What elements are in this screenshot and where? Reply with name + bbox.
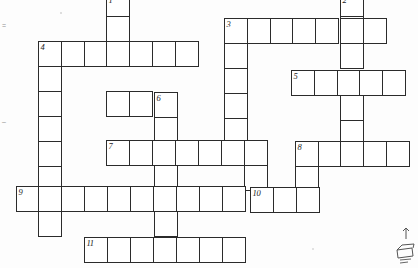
- crossword-cell-7[interactable]: 7: [106, 140, 130, 166]
- crossword-cell[interactable]: [106, 41, 130, 67]
- margin-mark: –: [2, 118, 6, 125]
- crossword-cell[interactable]: [106, 91, 130, 117]
- crossword-cell[interactable]: [38, 116, 62, 142]
- crossword-cell[interactable]: [292, 18, 316, 44]
- crossword-cell[interactable]: [273, 187, 297, 213]
- crossword-cell[interactable]: [38, 91, 62, 117]
- clue-number: 3: [227, 19, 231, 29]
- clue-number: 10: [253, 188, 261, 198]
- crossword-cell[interactable]: [38, 66, 62, 92]
- crossword-cell[interactable]: [340, 43, 364, 69]
- crossword-cell-10[interactable]: 10: [250, 187, 274, 213]
- crossword-cell[interactable]: [221, 140, 245, 166]
- clue-number: 7: [109, 141, 113, 151]
- crossword-cell[interactable]: [359, 70, 383, 96]
- crossword-grid[interactable]: 1234567891011: [0, 0, 418, 268]
- crossword-cell[interactable]: [315, 18, 339, 44]
- clue-number: 4: [41, 42, 45, 52]
- paper-speck: [60, 12, 62, 14]
- crossword-cell[interactable]: [363, 18, 387, 44]
- clue-number: 9: [19, 187, 23, 197]
- clue-number: 6: [157, 93, 161, 103]
- crossword-cell[interactable]: [247, 18, 271, 44]
- crossword-cell[interactable]: [154, 211, 178, 237]
- crossword-cell[interactable]: [222, 237, 246, 263]
- crossword-cell[interactable]: [270, 18, 294, 44]
- crossword-cell[interactable]: [224, 93, 248, 119]
- crossword-cell[interactable]: [152, 41, 176, 67]
- crossword-cell[interactable]: [340, 95, 364, 121]
- crossword-cell[interactable]: [224, 43, 248, 69]
- crossword-cell[interactable]: [244, 140, 268, 166]
- crossword-cell[interactable]: [130, 186, 154, 212]
- paper-speck: [312, 248, 314, 250]
- crossword-cell[interactable]: [363, 141, 387, 167]
- crossword-cell[interactable]: [199, 186, 223, 212]
- crossword-cell[interactable]: [106, 16, 130, 42]
- clue-number: 2: [343, 0, 347, 5]
- crossword-puzzle: 1234567891011 =–: [0, 0, 418, 268]
- crossword-cell-11[interactable]: 11: [84, 237, 108, 263]
- crossword-cell[interactable]: [153, 186, 177, 212]
- margin-mark: =: [2, 22, 6, 29]
- crossword-cell[interactable]: [176, 237, 200, 263]
- crossword-cell[interactable]: [337, 70, 361, 96]
- crossword-cell-6[interactable]: 6: [154, 92, 178, 118]
- crossword-cell[interactable]: [153, 237, 177, 263]
- crossword-cell[interactable]: [198, 140, 222, 166]
- crossword-cell[interactable]: [314, 70, 338, 96]
- crossword-cell[interactable]: [107, 237, 131, 263]
- crossword-cell-3[interactable]: 3: [224, 18, 248, 44]
- crossword-cell[interactable]: [38, 186, 62, 212]
- crossword-cell-9[interactable]: 9: [16, 186, 40, 212]
- crossword-cell[interactable]: [382, 70, 406, 96]
- crossword-cell[interactable]: [176, 186, 200, 212]
- crossword-cell[interactable]: [61, 186, 85, 212]
- crossword-cell[interactable]: [38, 141, 62, 167]
- crossword-cell[interactable]: [84, 41, 108, 67]
- crossword-cell[interactable]: [152, 140, 176, 166]
- crossword-cell-4[interactable]: 4: [38, 41, 62, 67]
- crossword-cell[interactable]: [340, 141, 364, 167]
- crossword-cell-8[interactable]: 8: [295, 141, 319, 167]
- crossword-cell[interactable]: [224, 68, 248, 94]
- crossword-cell[interactable]: [296, 187, 320, 213]
- crossword-cell[interactable]: [129, 91, 153, 117]
- crossword-cell[interactable]: [340, 18, 364, 44]
- crossword-cell-5[interactable]: 5: [291, 70, 315, 96]
- crossword-cell[interactable]: [199, 237, 223, 263]
- crossword-cell[interactable]: [129, 140, 153, 166]
- crossword-cell[interactable]: [107, 186, 131, 212]
- crossword-cell[interactable]: [61, 41, 85, 67]
- clue-number: 5: [294, 71, 298, 81]
- page-corner-scribble-icon: [394, 226, 416, 266]
- crossword-cell[interactable]: [38, 211, 62, 237]
- crossword-cell[interactable]: [222, 186, 246, 212]
- crossword-cell[interactable]: [129, 41, 153, 67]
- crossword-cell[interactable]: [84, 186, 108, 212]
- crossword-cell[interactable]: [175, 41, 199, 67]
- crossword-cell[interactable]: [175, 140, 199, 166]
- clue-number: 11: [87, 238, 94, 248]
- crossword-cell[interactable]: [318, 141, 342, 167]
- clue-number: 8: [298, 142, 302, 152]
- crossword-cell[interactable]: [130, 237, 154, 263]
- clue-number: 1: [109, 0, 113, 5]
- crossword-cell[interactable]: [386, 141, 410, 167]
